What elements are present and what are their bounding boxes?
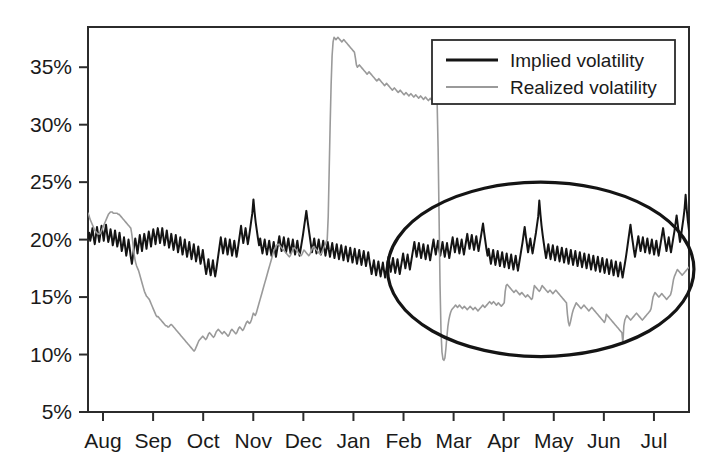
x-tick-label: Mar [436,429,472,452]
y-tick-label: 10% [30,343,72,366]
x-tick-label: Feb [385,429,421,452]
x-tick-label: Nov [235,429,273,452]
y-tick-label: 30% [30,113,72,136]
x-tick-label: Jul [641,429,668,452]
y-tick-label: 25% [30,170,72,193]
y-tick-label: 5% [42,400,72,423]
chart-figure: 35%30%25%20%15%10%5% AugSepOctNovDecJanF… [0,0,725,476]
legend-label-implied: Implied volatility [510,50,645,71]
x-tick-label: Jan [337,429,371,452]
x-tick-label: Oct [187,429,220,452]
volatility-line-chart: 35%30%25%20%15%10%5% AugSepOctNovDecJanF… [0,0,725,476]
x-tick-label: Dec [285,429,322,452]
x-tick-label: Jun [587,429,621,452]
y-tick-label: 20% [30,228,72,251]
chart-legend: Implied volatilityRealized volatility [432,40,675,104]
legend-label-realized: Realized volatility [510,77,657,98]
x-tick-label: Apr [487,429,520,452]
x-tick-label: Aug [84,429,121,452]
x-tick-label: May [534,429,574,452]
y-tick-label: 35% [30,55,72,78]
y-tick-label: 15% [30,285,72,308]
x-tick-label: Sep [134,429,171,452]
